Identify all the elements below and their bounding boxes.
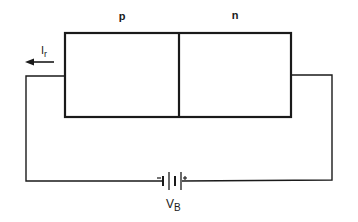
battery-positive-icon	[183, 176, 187, 180]
current-label: Ir	[41, 44, 47, 59]
left-wire	[26, 76, 163, 181]
battery-label: VB	[166, 197, 181, 213]
p-region-label: p	[119, 10, 126, 22]
right-wire	[182, 75, 332, 181]
n-region-label: n	[232, 9, 239, 21]
current-subscript: r	[44, 49, 47, 59]
current-arrow-icon	[25, 59, 34, 66]
battery-subscript: B	[174, 202, 181, 213]
battery-icon	[163, 172, 181, 190]
battery-symbol: V	[166, 197, 174, 211]
pn-junction-diagram: p n Ir VB	[0, 0, 358, 222]
